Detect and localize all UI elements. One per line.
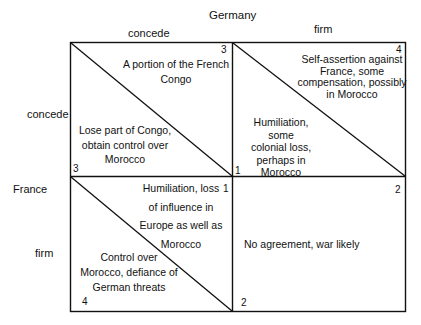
text-line: of influence in <box>131 198 231 217</box>
cell-ff-germany-payoff: 2 <box>395 184 401 195</box>
row-strategy-firm: firm <box>35 247 53 259</box>
text-line: Morocco, defiance of <box>74 265 184 280</box>
text-line: perhaps in <box>240 154 322 167</box>
text-line: Control over <box>74 250 184 265</box>
text-line: in Morocco <box>296 89 408 101</box>
cell-cf-france-payoff: 1 <box>235 165 241 176</box>
cell-cc-france-payoff: 3 <box>73 163 79 174</box>
text-line: Europe as well as <box>131 216 231 235</box>
text-line: compensation, possibly <box>296 77 408 89</box>
text-line: Morocco <box>70 152 180 167</box>
text-line: Congo <box>106 72 246 87</box>
text-line: Humiliation, loss <box>131 179 231 198</box>
text-line: A portion of the French <box>106 57 246 72</box>
text-line: colonial loss, <box>240 141 322 154</box>
cell-fc-germany-outcome: Humiliation, loss of influence in Europe… <box>131 179 231 253</box>
cell-cc-germany-payoff: 3 <box>221 44 227 55</box>
cell-fc-france-outcome: Control over Morocco, defiance of German… <box>74 250 184 295</box>
cell-fc-france-payoff: 4 <box>82 296 88 307</box>
text-line: Self-assertion against <box>296 54 408 66</box>
cell-ff-france-payoff: 2 <box>241 297 247 308</box>
cell-cc-germany-outcome: A portion of the French Congo <box>106 57 246 87</box>
text-line: Morocco <box>240 166 322 179</box>
text-line: German threats <box>74 280 184 295</box>
payoff-matrix-grid <box>0 0 421 325</box>
row-strategy-concede: concede <box>27 108 69 120</box>
cell-ff-outcome: No agreement, war likely <box>244 237 384 252</box>
text-line: obtain control over <box>70 138 180 153</box>
row-player-label: France <box>13 183 47 195</box>
cell-cc-france-outcome: Lose part of Congo, obtain control over … <box>70 123 180 167</box>
text-line: Humiliation, some <box>240 116 322 141</box>
column-strategy-concede: concede <box>128 27 170 39</box>
cell-cf-france-outcome: Humiliation, some colonial loss, perhaps… <box>240 116 322 179</box>
cell-cf-germany-outcome: Self-assertion against France, some comp… <box>296 54 408 100</box>
column-strategy-firm: firm <box>314 23 332 35</box>
column-player-label: Germany <box>209 9 256 21</box>
text-line: Lose part of Congo, <box>70 123 180 138</box>
